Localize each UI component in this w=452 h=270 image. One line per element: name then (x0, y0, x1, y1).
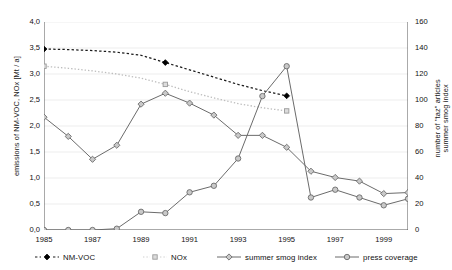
data-point-diamond (259, 132, 265, 138)
legend-label: summer smog index (245, 253, 317, 262)
plot-svg (44, 22, 408, 230)
y-left-tick-0-5: 0,5 (18, 199, 40, 208)
x-tick-1995: 1995 (270, 235, 304, 244)
data-point-square (44, 64, 46, 68)
data-point-circle (284, 64, 289, 69)
solid-diamond-marker (216, 252, 242, 262)
x-tick-1999: 1999 (367, 235, 401, 244)
y-right-tick-100: 100 (415, 95, 439, 104)
data-point-square (163, 82, 167, 86)
y-right-tick-60: 60 (415, 147, 439, 156)
data-point-filled-diamond (284, 93, 290, 99)
y-right-tick-120: 120 (415, 69, 439, 78)
data-point-circle (44, 227, 47, 230)
y-right-tick-160: 160 (415, 17, 439, 26)
y-left-tick-0-0: 0,0 (18, 225, 40, 234)
data-point-filled-diamond (44, 46, 47, 52)
y-left-tick-3-0: 3,0 (18, 69, 40, 78)
series-summer-smog-index (44, 90, 408, 197)
x-tick-1997: 1997 (318, 235, 352, 244)
data-point-circle (405, 196, 408, 201)
y-left-tick-4-0: 4,0 (18, 17, 40, 26)
legend-label: press coverage (363, 253, 418, 262)
data-point-diamond (187, 100, 193, 106)
x-tick-1991: 1991 (173, 235, 207, 244)
chart-legend: NM-VOCNOxsummer smog indexpress coverage (34, 248, 434, 266)
data-point-diamond (381, 191, 387, 197)
data-point-square (153, 255, 157, 259)
data-point-circle (163, 210, 168, 215)
chart-container: emissions of NM-VOC, NOx [Mt / a] number… (0, 0, 452, 270)
data-point-circle (114, 226, 119, 230)
series-nm-voc (44, 46, 290, 99)
data-point-circle (308, 195, 313, 200)
y-right-tick-80: 80 (415, 121, 439, 130)
data-point-circle (138, 209, 143, 214)
y-left-tick-2-0: 2,0 (18, 121, 40, 130)
data-point-circle (357, 195, 362, 200)
y-left-tick-1-0: 1,0 (18, 173, 40, 182)
data-point-circle (260, 93, 265, 98)
data-point-circle (344, 254, 349, 259)
solid-circle-marker (334, 252, 360, 262)
series-line (44, 66, 408, 230)
series-line (44, 66, 287, 111)
legend-label: NOx (171, 253, 187, 262)
data-point-circle (381, 203, 386, 208)
data-point-circle (66, 227, 71, 230)
x-tick-1989: 1989 (124, 235, 158, 244)
data-point-circle (90, 227, 95, 230)
data-point-circle (235, 156, 240, 161)
legend-item-nm-voc[interactable]: NM-VOC (34, 252, 95, 262)
data-point-circle (211, 183, 216, 188)
x-tick-1985: 1985 (27, 235, 61, 244)
y-right-tick-0: 0 (415, 225, 439, 234)
plot-area (44, 22, 408, 230)
y-right-tick-40: 40 (415, 173, 439, 182)
data-point-filled-diamond (44, 254, 50, 260)
legend-label: NM-VOC (63, 253, 95, 262)
dotted-light-square-marker (142, 252, 168, 262)
data-point-square (284, 109, 288, 113)
legend-item-nox[interactable]: NOx (142, 252, 187, 262)
data-point-diamond (162, 90, 168, 96)
data-point-diamond (138, 101, 144, 107)
data-point-diamond (405, 189, 408, 195)
y-right-tick-140: 140 (415, 43, 439, 52)
data-point-diamond (332, 174, 338, 180)
y-axis-right-title-line2: summer smog index (442, 38, 450, 198)
series-line (44, 49, 287, 96)
data-point-filled-diamond (162, 60, 168, 66)
data-point-circle (187, 190, 192, 195)
series-press-coverage (44, 64, 408, 231)
x-tick-1993: 1993 (221, 235, 255, 244)
y-left-tick-3-5: 3,5 (18, 43, 40, 52)
y-left-tick-2-5: 2,5 (18, 95, 40, 104)
data-point-diamond (226, 254, 232, 260)
y-left-tick-1-5: 1,5 (18, 147, 40, 156)
dashed-filled-diamond-marker (34, 252, 60, 262)
data-point-diamond (356, 178, 362, 184)
data-point-circle (333, 187, 338, 192)
series-line (44, 93, 408, 193)
legend-item-summer-smog-index[interactable]: summer smog index (216, 252, 317, 262)
legend-item-press-coverage[interactable]: press coverage (334, 252, 418, 262)
data-point-diamond (114, 142, 120, 148)
x-tick-1987: 1987 (76, 235, 110, 244)
y-right-tick-20: 20 (415, 199, 439, 208)
